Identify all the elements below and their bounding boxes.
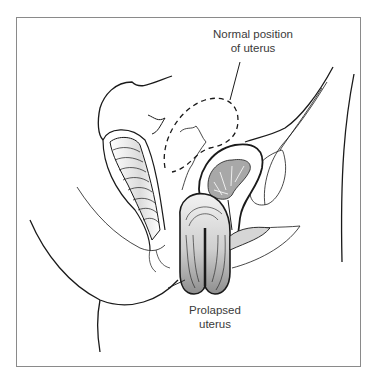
label-prolapsed-uterus: Prolapsed uterus: [180, 303, 250, 331]
normal-position-leader: [230, 62, 240, 100]
rectum: [103, 130, 170, 272]
label-normal-line1: Normal position: [203, 27, 303, 41]
prolapsed-uterus: [180, 194, 270, 294]
label-normal-position: Normal position of uterus: [203, 27, 303, 55]
label-prolapsed-line1: Prolapsed: [180, 303, 250, 317]
label-prolapsed-line2: uterus: [180, 317, 250, 331]
label-normal-line2: of uterus: [203, 41, 303, 55]
